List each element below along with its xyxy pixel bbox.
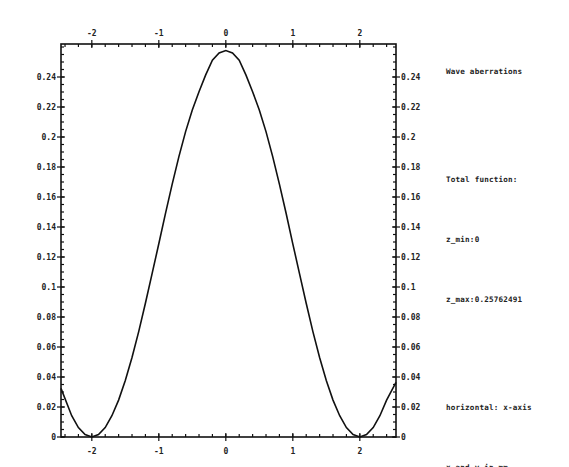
x-tick-label-bottom: -1 bbox=[154, 447, 164, 456]
y-tick-label-left: 0.22 bbox=[37, 103, 56, 112]
y-tick-label-right: 0.24 bbox=[401, 73, 420, 82]
y-tick-label-right: 0.2 bbox=[401, 133, 416, 142]
y-tick-label-right: 0.16 bbox=[401, 193, 420, 202]
total-z-max: z_max:0.25762491 bbox=[446, 290, 569, 310]
y-tick-label-left: 0.18 bbox=[37, 163, 56, 172]
x-tick-label-top: -2 bbox=[87, 29, 97, 38]
plot-frame bbox=[61, 44, 396, 437]
y-tick-label-right: 0.18 bbox=[401, 163, 420, 172]
tick-labels: -2-2-1-1001122000.020.020.040.040.060.06… bbox=[37, 29, 421, 456]
y-tick-label-left: 0 bbox=[51, 433, 56, 442]
y-tick-label-right: 0 bbox=[401, 433, 406, 442]
y-tick-label-left: 0.08 bbox=[37, 313, 56, 322]
y-tick-label-right: 0.12 bbox=[401, 253, 420, 262]
x-tick-label-bottom: -2 bbox=[87, 447, 97, 456]
y-tick-label-right: 0.22 bbox=[401, 103, 420, 112]
y-tick-label-right: 0.04 bbox=[401, 373, 420, 382]
horizontal-axis-info: horizontal: x-axis bbox=[446, 398, 569, 418]
total-function-label: Total function: bbox=[446, 170, 569, 190]
y-tick-label-left: 0.16 bbox=[37, 193, 56, 202]
x-tick-label-bottom: 2 bbox=[357, 447, 362, 456]
x-tick-label-top: 2 bbox=[357, 29, 362, 38]
y-tick-label-right: 0.14 bbox=[401, 223, 420, 232]
y-tick-label-left: 0.2 bbox=[42, 133, 57, 142]
x-tick-label-bottom: 1 bbox=[290, 447, 295, 456]
y-tick-label-left: 0.12 bbox=[37, 253, 56, 262]
major-ticks bbox=[57, 40, 400, 441]
units-info: x and y in mm bbox=[446, 458, 569, 467]
x-tick-label-top: 0 bbox=[223, 29, 228, 38]
chart-plot: -2-2-1-1001122000.020.020.040.040.060.06… bbox=[0, 0, 446, 467]
series-line-section bbox=[61, 51, 396, 437]
y-tick-label-left: 0.14 bbox=[37, 223, 56, 232]
y-tick-label-right: 0.02 bbox=[401, 403, 420, 412]
y-tick-label-left: 0.02 bbox=[37, 403, 56, 412]
y-tick-label-left: 0.06 bbox=[37, 343, 56, 352]
y-tick-label-left: 0.04 bbox=[37, 373, 56, 382]
x-tick-label-top: 1 bbox=[290, 29, 295, 38]
y-tick-label-right: 0.08 bbox=[401, 313, 420, 322]
minor-ticks bbox=[61, 44, 396, 437]
y-tick-label-left: 0.1 bbox=[42, 283, 57, 292]
x-tick-label-bottom: 0 bbox=[223, 447, 228, 456]
y-tick-label-right: 0.06 bbox=[401, 343, 420, 352]
y-tick-label-right: 0.1 bbox=[401, 283, 416, 292]
panel-title: Wave aberrations bbox=[446, 62, 569, 82]
x-tick-label-top: -1 bbox=[154, 29, 164, 38]
info-panel: Wave aberrations Total function: z_min:0… bbox=[446, 22, 569, 467]
y-tick-label-left: 0.24 bbox=[37, 73, 56, 82]
total-z-min: z_min:0 bbox=[446, 230, 569, 250]
